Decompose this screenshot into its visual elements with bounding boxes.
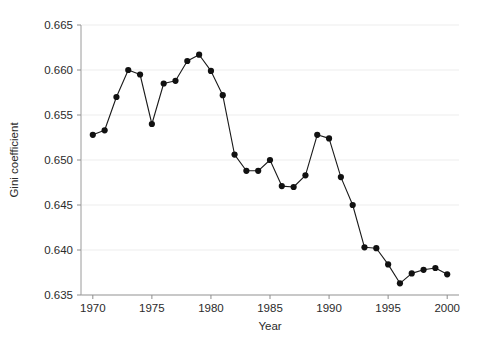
x-tick-label: 1985 [257, 302, 283, 314]
data-point-marker [279, 183, 285, 189]
gini-marker-group [90, 52, 451, 287]
data-point-marker [243, 168, 249, 174]
data-point-marker [184, 58, 190, 64]
y-axis-title: Gini coefficient [8, 122, 20, 198]
data-point-marker [373, 245, 379, 251]
x-axis-title: Year [258, 320, 281, 332]
chart-canvas: 0.6350.6400.6450.6500.6550.6600.665 1970… [0, 0, 479, 343]
x-tick-label: 1975 [139, 302, 165, 314]
y-tick-label: 0.645 [44, 199, 73, 211]
data-point-marker [291, 184, 297, 190]
data-point-marker [326, 135, 332, 141]
data-point-marker [125, 67, 131, 73]
data-point-marker [208, 68, 214, 74]
x-tick-label: 2000 [434, 302, 460, 314]
data-point-marker [350, 202, 356, 208]
data-point-marker [161, 80, 167, 86]
data-point-marker [361, 244, 367, 250]
x-tick-group [93, 295, 447, 299]
data-point-marker [302, 172, 308, 178]
data-point-marker [444, 271, 450, 277]
data-point-marker [149, 121, 155, 127]
y-tick-label: 0.660 [44, 64, 73, 76]
x-tick-label: 1970 [80, 302, 106, 314]
data-point-marker [220, 92, 226, 98]
data-point-marker [420, 267, 426, 273]
data-point-marker [255, 168, 261, 174]
data-point-marker [90, 132, 96, 138]
data-point-marker [267, 157, 273, 163]
data-point-marker [113, 94, 119, 100]
data-point-marker [102, 127, 108, 133]
data-point-marker [231, 152, 237, 158]
x-tick-label: 1980 [198, 302, 224, 314]
y-tick-label: 0.635 [44, 289, 73, 301]
y-tick-label: 0.665 [44, 19, 73, 31]
x-tick-label: 1995 [375, 302, 401, 314]
y-tick-group [77, 25, 81, 295]
y-tick-label: 0.640 [44, 244, 73, 256]
data-point-marker [397, 280, 403, 286]
y-tick-label-group: 0.6350.6400.6450.6500.6550.6600.665 [44, 19, 73, 301]
data-point-marker [385, 261, 391, 267]
gini-line-series [93, 55, 447, 284]
data-point-marker [172, 78, 178, 84]
y-tick-label: 0.650 [44, 154, 73, 166]
data-point-marker [196, 52, 202, 58]
x-tick-label: 1990 [316, 302, 342, 314]
chart-figure: 0.6350.6400.6450.6500.6550.6600.665 1970… [0, 0, 479, 343]
data-point-marker [409, 270, 415, 276]
x-tick-label-group: 1970197519801985199019952000 [80, 302, 460, 314]
data-point-marker [137, 71, 143, 77]
data-point-marker [338, 174, 344, 180]
data-point-marker [314, 132, 320, 138]
y-tick-label: 0.655 [44, 109, 73, 121]
data-point-marker [432, 265, 438, 271]
